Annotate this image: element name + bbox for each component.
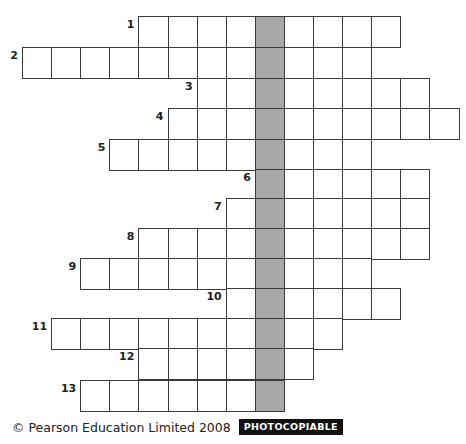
answer-cell[interactable] — [400, 169, 430, 201]
shaded-answer-cell[interactable] — [255, 380, 285, 412]
answer-cell[interactable] — [197, 78, 227, 110]
shaded-answer-cell[interactable] — [255, 16, 285, 48]
answer-cell[interactable] — [197, 258, 227, 290]
answer-cell[interactable] — [138, 318, 169, 350]
answer-cell[interactable] — [226, 139, 256, 171]
answer-cell[interactable] — [342, 139, 372, 171]
shaded-answer-cell[interactable] — [255, 169, 285, 201]
answer-cell[interactable] — [168, 108, 198, 140]
answer-cell[interactable] — [313, 198, 343, 230]
answer-cell[interactable] — [400, 228, 430, 260]
answer-cell[interactable] — [342, 47, 372, 79]
answer-cell[interactable] — [371, 16, 401, 48]
answer-cell[interactable] — [226, 318, 256, 350]
shaded-answer-cell[interactable] — [255, 318, 285, 350]
shaded-answer-cell[interactable] — [255, 228, 285, 260]
answer-cell[interactable] — [51, 318, 81, 350]
answer-cell[interactable] — [138, 228, 169, 260]
answer-cell[interactable] — [342, 288, 372, 320]
answer-cell[interactable] — [109, 47, 139, 79]
answer-cell[interactable] — [371, 108, 401, 140]
answer-cell[interactable] — [197, 16, 227, 48]
answer-cell[interactable] — [109, 139, 139, 171]
answer-cell[interactable] — [197, 380, 227, 412]
answer-cell[interactable] — [284, 169, 314, 201]
answer-cell[interactable] — [284, 228, 314, 260]
answer-cell[interactable] — [168, 139, 198, 171]
answer-cell[interactable] — [138, 16, 169, 48]
answer-cell[interactable] — [284, 47, 314, 79]
answer-cell[interactable] — [226, 228, 256, 260]
answer-cell[interactable] — [371, 78, 401, 110]
answer-cell[interactable] — [168, 380, 198, 412]
shaded-answer-cell[interactable] — [255, 139, 285, 171]
answer-cell[interactable] — [400, 198, 430, 230]
answer-cell[interactable] — [80, 380, 110, 412]
answer-cell[interactable] — [313, 258, 343, 290]
answer-cell[interactable] — [313, 288, 343, 320]
answer-cell[interactable] — [51, 47, 81, 79]
answer-cell[interactable] — [226, 348, 256, 380]
answer-cell[interactable] — [226, 78, 256, 110]
answer-cell[interactable] — [197, 348, 227, 380]
answer-cell[interactable] — [80, 258, 110, 290]
shaded-answer-cell[interactable] — [255, 198, 285, 230]
answer-cell[interactable] — [342, 16, 372, 48]
answer-cell[interactable] — [313, 78, 343, 110]
answer-cell[interactable] — [284, 139, 314, 171]
answer-cell[interactable] — [109, 380, 139, 412]
answer-cell[interactable] — [284, 108, 314, 140]
answer-cell[interactable] — [138, 258, 169, 290]
answer-cell[interactable] — [226, 16, 256, 48]
answer-cell[interactable] — [284, 318, 314, 350]
answer-cell[interactable] — [313, 16, 343, 48]
answer-cell[interactable] — [226, 108, 256, 140]
shaded-answer-cell[interactable] — [255, 258, 285, 290]
shaded-answer-cell[interactable] — [255, 78, 285, 110]
answer-cell[interactable] — [284, 198, 314, 230]
answer-cell[interactable] — [197, 47, 227, 79]
answer-cell[interactable] — [138, 380, 169, 412]
answer-cell[interactable] — [371, 198, 401, 230]
shaded-answer-cell[interactable] — [255, 108, 285, 140]
answer-cell[interactable] — [168, 16, 198, 48]
answer-cell[interactable] — [168, 258, 198, 290]
shaded-answer-cell[interactable] — [255, 348, 285, 380]
answer-cell[interactable] — [284, 258, 314, 290]
answer-cell[interactable] — [371, 228, 401, 260]
answer-cell[interactable] — [226, 198, 256, 230]
answer-cell[interactable] — [342, 78, 372, 110]
answer-cell[interactable] — [284, 78, 314, 110]
answer-cell[interactable] — [371, 169, 401, 201]
answer-cell[interactable] — [22, 47, 52, 79]
answer-cell[interactable] — [342, 169, 372, 201]
answer-cell[interactable] — [400, 108, 430, 140]
answer-cell[interactable] — [342, 108, 372, 140]
answer-cell[interactable] — [313, 318, 343, 350]
answer-cell[interactable] — [400, 78, 430, 110]
answer-cell[interactable] — [168, 228, 198, 260]
answer-cell[interactable] — [138, 139, 169, 171]
answer-cell[interactable] — [284, 288, 314, 320]
answer-cell[interactable] — [226, 258, 256, 290]
answer-cell[interactable] — [197, 318, 227, 350]
answer-cell[interactable] — [168, 348, 198, 380]
answer-cell[interactable] — [313, 228, 343, 260]
answer-cell[interactable] — [168, 47, 198, 79]
answer-cell[interactable] — [313, 169, 343, 201]
answer-cell[interactable] — [80, 318, 110, 350]
shaded-answer-cell[interactable] — [255, 47, 285, 79]
shaded-answer-cell[interactable] — [255, 288, 285, 320]
answer-cell[interactable] — [168, 318, 198, 350]
answer-cell[interactable] — [342, 198, 372, 230]
answer-cell[interactable] — [197, 108, 227, 140]
answer-cell[interactable] — [109, 318, 139, 350]
answer-cell[interactable] — [197, 228, 227, 260]
answer-cell[interactable] — [138, 47, 169, 79]
answer-cell[interactable] — [313, 139, 343, 171]
answer-cell[interactable] — [284, 16, 314, 48]
answer-cell[interactable] — [371, 288, 401, 320]
answer-cell[interactable] — [342, 228, 372, 260]
answer-cell[interactable] — [313, 108, 343, 140]
answer-cell[interactable] — [80, 47, 110, 79]
